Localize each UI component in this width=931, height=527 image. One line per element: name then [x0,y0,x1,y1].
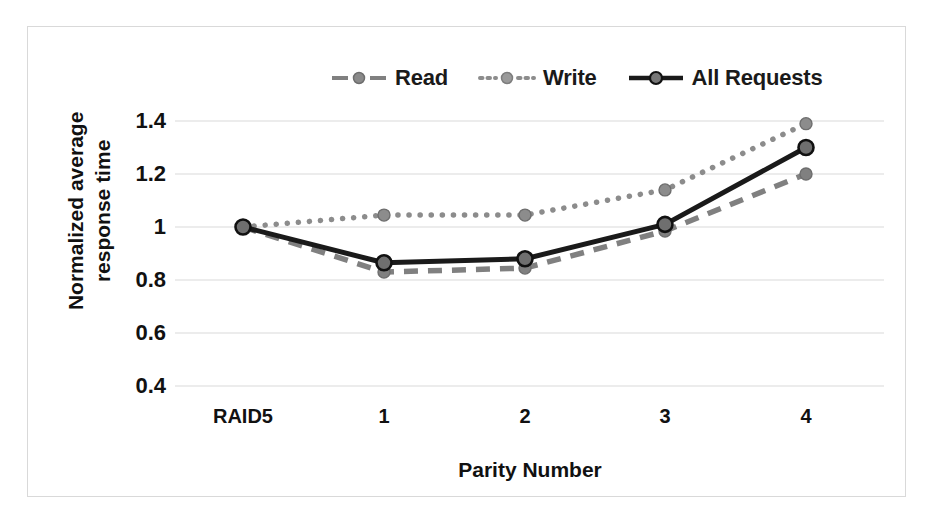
y-tick-label-1: 1 [104,214,166,240]
legend-item-read[interactable]: Read [330,65,448,91]
y-tick-label-1.2: 1.2 [104,161,166,187]
y-tick-label-0.8: 0.8 [104,267,166,293]
x-tick-label-3: 3 [605,405,725,428]
legend-item-write[interactable]: Write [478,65,597,91]
x-tick-label-2: 2 [465,405,585,428]
x-axis-title: Parity Number [175,458,885,482]
y-tick-label-0.6: 0.6 [104,320,166,346]
y-axis-title: Normalized average response time [63,61,117,361]
y-axis-title-line-1: Normalized average [63,61,90,361]
x-tick-label-1: 1 [324,405,444,428]
legend-label-all-requests: All Requests [692,65,823,91]
x-tick-label-raid5: RAID5 [183,405,303,428]
y-axis-title-line-2: response time [90,61,117,361]
x-tick-label-4: 4 [746,405,866,428]
legend-swatch-read-icon [330,69,388,87]
legend-item-all-requests[interactable]: All Requests [627,65,823,91]
legend-label-read: Read [395,65,448,91]
chart-legend: Read Write All Requests [330,58,822,98]
legend-swatch-all-requests-icon [627,69,685,87]
y-tick-label-0.4: 0.4 [104,373,166,399]
y-tick-label-1.4: 1.4 [104,108,166,134]
legend-swatch-write-icon [478,69,536,87]
legend-label-write: Write [543,65,597,91]
